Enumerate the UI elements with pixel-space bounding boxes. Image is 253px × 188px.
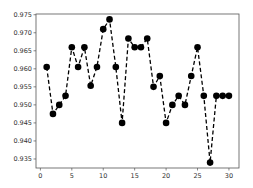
x-tick-label: 15 [131, 172, 139, 180]
data-point-marker [50, 111, 57, 118]
y-tick-label: 0.945 [13, 119, 32, 127]
data-point-marker [113, 64, 120, 71]
data-point-marker [119, 120, 126, 127]
data-point-marker [157, 73, 164, 80]
data-point-marker [100, 26, 107, 33]
data-point-marker [144, 35, 151, 42]
data-point-marker [188, 73, 195, 80]
data-point-marker [94, 64, 101, 71]
data-point-marker [56, 102, 63, 109]
data-point-marker [43, 64, 50, 71]
data-point-marker [163, 120, 170, 127]
y-tick-label: 0.955 [13, 83, 32, 91]
data-point-marker [75, 64, 82, 71]
data-point-marker [219, 93, 226, 100]
x-tick-label: 10 [99, 172, 107, 180]
data-point-marker [201, 93, 208, 100]
y-tick-label: 0.950 [13, 101, 32, 109]
data-point-marker [194, 44, 201, 51]
data-point-marker [69, 44, 76, 51]
data-point-marker [175, 93, 182, 100]
x-axis-ticks: 051015202530 [38, 168, 233, 180]
x-tick-label: 20 [162, 172, 170, 180]
data-point-marker [213, 93, 220, 100]
data-point-marker [62, 93, 69, 100]
data-point-marker [138, 44, 145, 51]
data-point-marker [87, 82, 94, 89]
x-tick-label: 5 [70, 172, 74, 180]
y-axis-ticks: 0.9350.9400.9450.9500.9550.9600.9650.970… [13, 11, 36, 163]
y-tick-label: 0.960 [13, 65, 32, 73]
data-point-marker [81, 44, 88, 51]
y-tick-label: 0.935 [13, 155, 32, 163]
data-point-marker [169, 102, 176, 109]
x-tick-label: 30 [225, 172, 233, 180]
data-point-marker [131, 44, 138, 51]
x-tick-label: 25 [193, 172, 201, 180]
y-tick-label: 0.970 [13, 29, 32, 37]
data-point-marker [125, 35, 132, 42]
x-tick-label: 0 [38, 172, 42, 180]
data-point-marker [207, 159, 214, 166]
data-point-marker [106, 16, 113, 23]
data-point-marker [182, 102, 189, 109]
y-tick-label: 0.965 [13, 47, 32, 55]
y-tick-label: 0.975 [13, 11, 32, 19]
data-point-marker [226, 93, 233, 100]
data-point-marker [150, 84, 157, 91]
y-tick-label: 0.940 [13, 137, 32, 145]
line-chart: 0.9350.9400.9450.9500.9550.9600.9650.970… [0, 0, 253, 188]
